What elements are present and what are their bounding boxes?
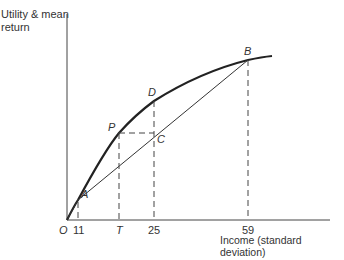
origin-label: O bbox=[59, 224, 68, 236]
x-axis-label: Income (standard deviation) bbox=[220, 234, 344, 258]
point-b-label: B bbox=[244, 45, 251, 57]
chord-line-ab bbox=[78, 60, 248, 200]
utility-diagram: A P C D B O 11 T 25 59 bbox=[0, 0, 344, 260]
point-a-label: A bbox=[80, 188, 88, 200]
point-c-label: C bbox=[157, 133, 165, 145]
point-p-label: P bbox=[108, 121, 116, 133]
utility-curve bbox=[67, 56, 272, 220]
tick-label-25: 25 bbox=[148, 224, 160, 236]
origin-to-a-line bbox=[67, 200, 78, 220]
tick-label-t: T bbox=[116, 224, 124, 236]
point-d-label: D bbox=[148, 86, 156, 98]
tick-label-11: 11 bbox=[73, 224, 84, 236]
